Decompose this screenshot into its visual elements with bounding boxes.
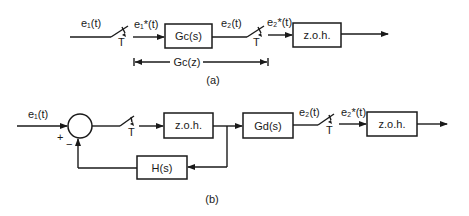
sum-plus-sign: +: [57, 131, 63, 143]
switch-1-period-label-b: T: [128, 126, 135, 138]
h-block-label: H(s): [152, 162, 173, 174]
gd-block-label: Gd(s): [254, 120, 282, 132]
switch-2-period-label: T: [253, 36, 260, 48]
sampled-signal-1-label: e₁*(t): [134, 18, 159, 30]
switch-2-period-label-b: T: [326, 124, 333, 136]
gc-z-bracket: [134, 58, 268, 66]
intermediate-signal-label-b: e₂(t): [299, 106, 320, 118]
input-signal-label: e₁(t): [81, 17, 101, 29]
diagram-b: e₁(t) + − T z.o.h. Gd(s) e₂(t) T e₂*(t) …: [17, 106, 447, 205]
gc-block-label: Gc(s): [175, 30, 202, 42]
block-diagram-canvas: T e₁(t) e₁*(t) Gc(s) e₂(t) T e₂*(t) z.o.…: [0, 0, 469, 216]
sum-minus-sign: −: [66, 138, 72, 150]
intermediate-signal-label: e₂(t): [221, 17, 242, 29]
sampler-switch-1-b: [120, 116, 134, 126]
gc-z-label: Gc(z): [174, 56, 201, 68]
caption-b: (b): [205, 193, 218, 205]
zoh-block-2-b-label: z.o.h.: [379, 118, 406, 130]
switch-1-period-label: T: [118, 36, 125, 48]
sampled-signal-2-label-b: e₂*(t): [341, 106, 366, 118]
summing-junction: [68, 114, 92, 138]
sampled-signal-2-label: e₂*(t): [267, 16, 292, 28]
zoh-block-a-label: z.o.h.: [304, 29, 331, 41]
input-signal-label-b: e₁(t): [28, 108, 48, 120]
diagram-a: T e₁(t) e₁*(t) Gc(s) e₂(t) T e₂*(t) z.o.…: [70, 16, 388, 86]
caption-a: (a): [206, 74, 219, 86]
zoh-block-1-b-label: z.o.h.: [175, 119, 202, 131]
